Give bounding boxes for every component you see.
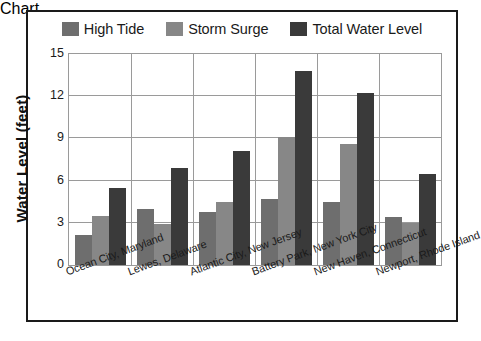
legend-entry-high-tide: High Tide (62, 21, 144, 37)
bar (261, 199, 278, 265)
chart-legend: High Tide Storm Surge Total Water Level (26, 18, 458, 40)
y-axis-tick-labels: 03691215 (30, 53, 64, 266)
y-tick-label: 15 (34, 46, 64, 60)
x-axis-tick-labels: Ocean City, MarylandLewes, DelawareAtlan… (68, 266, 442, 326)
bar-group (69, 54, 131, 265)
y-tick-label: 3 (34, 215, 64, 229)
legend-entry-storm-surge: Storm Surge (166, 21, 268, 37)
legend-swatch-high-tide (62, 22, 79, 36)
y-axis-title-text: Water Level (feet) (13, 94, 30, 222)
y-tick-label: 6 (34, 173, 64, 187)
bar (278, 137, 295, 265)
y-tick-label: 0 (34, 257, 64, 271)
plot-area (68, 53, 442, 266)
legend-label-storm-surge: Storm Surge (188, 21, 268, 37)
bar (357, 93, 374, 265)
legend-entry-total-water-level: Total Water Level (290, 21, 422, 37)
y-tick-label: 12 (34, 88, 64, 102)
y-tick-label: 9 (34, 130, 64, 144)
y-axis-title: Water Level (feet) (10, 48, 32, 268)
bar-group (193, 54, 255, 265)
legend-swatch-total-water-level (290, 22, 307, 36)
legend-swatch-storm-surge (166, 22, 183, 36)
bar (340, 144, 357, 265)
legend-label-high-tide: High Tide (84, 21, 144, 37)
legend-label-total-water-level: Total Water Level (312, 21, 422, 37)
